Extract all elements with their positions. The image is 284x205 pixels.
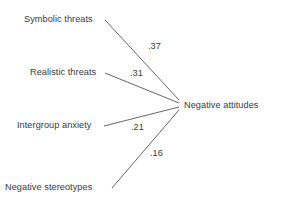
node-label-negative-stereotypes: Negative stereotypes bbox=[5, 182, 92, 193]
node-label-symbolic-threats: Symbolic threats bbox=[24, 14, 93, 25]
path-diagram: Symbolic threats Realistic threats Inter… bbox=[0, 0, 284, 205]
node-label-realistic-threats: Realistic threats bbox=[30, 67, 96, 78]
coefficient-label-intergroup-anxiety: .21 bbox=[131, 122, 144, 133]
coefficient-label-negative-stereotypes: .16 bbox=[150, 148, 163, 159]
coefficient-label-realistic-threats: .31 bbox=[130, 68, 143, 79]
coefficient-label-symbolic-threats: .37 bbox=[148, 41, 161, 52]
node-label-intergroup-anxiety: Intergroup anxiety bbox=[17, 120, 91, 131]
node-label-negative-attitudes: Negative attitudes bbox=[184, 100, 258, 111]
